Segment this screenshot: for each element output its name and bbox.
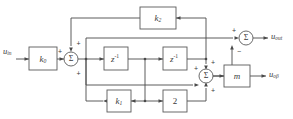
arrow-k2-into-sum — [69, 48, 73, 53]
summer-output-bottom-symbol: Σ — [204, 71, 209, 80]
gain-2-label: 2 — [173, 96, 178, 106]
arrow-into-gain2 — [159, 99, 164, 103]
arrow-k0-to-sum — [60, 57, 65, 61]
block-gain-2[interactable]: 2 — [163, 90, 187, 112]
summer-output-bottom-sign-top: + — [211, 59, 215, 66]
block-gain-k0[interactable]: k0 — [29, 47, 57, 70]
summer-input-symbol: Σ — [69, 54, 74, 63]
arrow-input-to-k0 — [25, 57, 30, 61]
arrow-mid-rail-into-sum — [195, 83, 200, 87]
summer-input-sign-bottom: + — [76, 70, 80, 77]
block-delay-1[interactable]: z-1 — [104, 47, 128, 70]
output-label-uout: uout — [271, 31, 283, 42]
arrow-delay1-to-delay2 — [159, 57, 164, 61]
arrow-into-sum-top-minus — [230, 45, 234, 50]
summer-output-top[interactable]: Σ + − — [232, 27, 253, 55]
block-gain-m[interactable]: m — [224, 65, 250, 87]
summer-output-bottom[interactable]: Σ + + + — [194, 59, 215, 94]
summer-output-bottom-sign-left: + — [194, 65, 198, 72]
arrow-into-k1 — [131, 99, 136, 103]
summer-input-sign-left: + — [58, 48, 62, 55]
summer-input-sign-top: + — [76, 40, 80, 47]
block-diagram: k0 k2 z-1 z-1 k1 2 m — [0, 0, 293, 119]
summer-output-bottom-sign-bottom: + — [211, 87, 215, 94]
output-label-uobeta: uoβ — [269, 69, 279, 80]
summer-output-top-sign-bottom: − — [237, 48, 241, 55]
arrow-output-top — [264, 36, 269, 40]
block-gain-k1[interactable]: k1 — [107, 90, 131, 112]
arrow-sum-to-delay1 — [100, 57, 105, 61]
arrow-into-k2 — [176, 16, 181, 20]
summer-output-top-symbol: Σ — [244, 33, 249, 42]
gain-m-label: m — [234, 71, 241, 81]
block-delay-2[interactable]: z-1 — [163, 47, 187, 70]
arrow-m-output — [262, 74, 267, 78]
block-gain-k2[interactable]: k2 — [140, 7, 176, 29]
summer-output-top-sign-left: + — [232, 27, 236, 34]
diagram-canvas: k0 k2 z-1 z-1 k1 2 m — [0, 0, 293, 119]
input-label-uin: uin — [3, 46, 12, 57]
arrow-upper-rail-into-sum-top — [235, 36, 240, 40]
